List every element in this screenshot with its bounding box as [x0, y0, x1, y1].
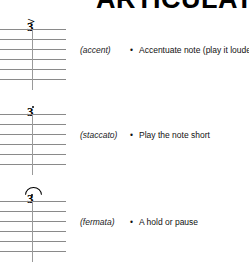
articulation-term: (staccato): [80, 130, 117, 140]
staff-lines: [0, 201, 66, 252]
staff-line: [0, 79, 66, 80]
articulation-term: (accent): [80, 45, 111, 55]
staff-line: [0, 69, 66, 70]
staff-line: [0, 241, 66, 242]
note-stem: [32, 114, 33, 175]
staff-line: [0, 124, 66, 125]
articulation-term: (fermata): [80, 217, 114, 227]
staff-line: [0, 49, 66, 50]
note-stem: [32, 201, 33, 262]
description-text: A hold or pause: [139, 217, 198, 227]
staff-line: [0, 221, 66, 222]
staff-line: [0, 211, 66, 212]
staff-lines: [0, 29, 66, 80]
staff-line: [0, 29, 66, 30]
staff-line: [0, 59, 66, 60]
staff-line: [0, 201, 66, 202]
staff-line: [0, 251, 66, 252]
tab-staff-staccato: 3: [0, 99, 68, 175]
articulation-description: •A hold or pause: [130, 217, 198, 227]
description-text: Play the note short: [139, 130, 210, 140]
bullet-icon: •: [130, 217, 139, 227]
staff-line: [0, 39, 66, 40]
staff-line: [0, 164, 66, 165]
articulation-description: •Accentuate note (play it louder): [130, 45, 249, 55]
staff-line: [0, 144, 66, 145]
bullet-icon: •: [130, 45, 139, 55]
tab-staff-accent: > 3: [0, 14, 68, 90]
staff-line: [0, 114, 66, 115]
bullet-icon: •: [130, 130, 139, 140]
page-title: ARTICULATION: [96, 0, 249, 14]
note-stem: [32, 29, 33, 90]
staff-line: [0, 231, 66, 232]
staff-line: [0, 134, 66, 135]
staff-line: [0, 154, 66, 155]
tab-staff-fermata: 3: [0, 186, 68, 262]
description-text: Accentuate note (play it louder): [139, 45, 249, 55]
articulation-description: •Play the note short: [130, 130, 210, 140]
staff-lines: [0, 114, 66, 165]
